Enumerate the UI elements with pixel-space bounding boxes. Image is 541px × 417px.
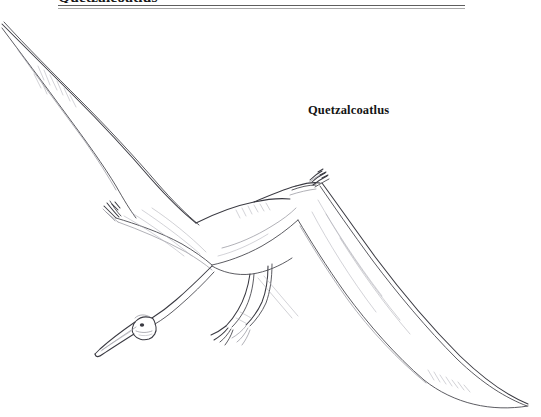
caption-label: Quetzalcoatlus [308, 103, 389, 118]
quetzalcoatlus-drawing [0, 0, 541, 417]
eye [140, 323, 144, 326]
document-page: Quetzalcoatlus [0, 0, 541, 417]
quetzalcoatlus-illustration [0, 0, 541, 417]
